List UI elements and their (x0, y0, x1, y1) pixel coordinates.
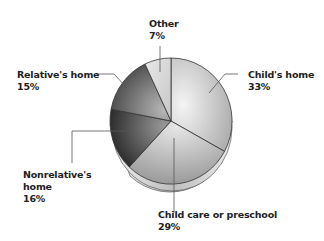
label-other-pct: 7% (149, 30, 179, 42)
label-childs-home: Child's home 33% (248, 69, 314, 93)
label-child-care-pct: 29% (158, 221, 277, 233)
label-relatives-home-pct: 15% (17, 81, 99, 93)
label-relatives-home: Relative's home 15% (17, 69, 99, 93)
label-nonrelatives-home-name1: Nonrelative's (23, 169, 91, 181)
label-other-name: Other (149, 18, 179, 30)
label-other: Other 7% (149, 18, 179, 42)
label-childs-home-name: Child's home (248, 69, 314, 81)
label-child-care: Child care or preschool 29% (158, 209, 277, 233)
pie-slices (110, 58, 232, 184)
label-nonrelatives-home-pct: 16% (23, 193, 91, 205)
label-nonrelatives-home: Nonrelative's home 16% (23, 169, 91, 205)
label-nonrelatives-home-name2: home (23, 181, 91, 193)
label-childs-home-pct: 33% (248, 81, 314, 93)
label-child-care-name: Child care or preschool (158, 209, 277, 221)
label-relatives-home-name: Relative's home (17, 69, 99, 81)
